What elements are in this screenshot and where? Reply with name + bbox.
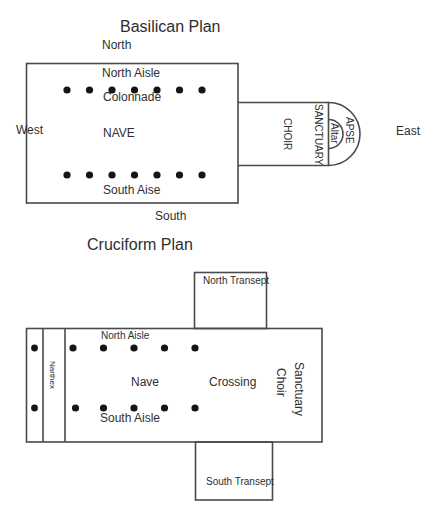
compass-east: East — [396, 124, 421, 138]
column-dot — [191, 404, 198, 411]
altar-label: Altar — [329, 123, 340, 144]
column-dot — [161, 344, 168, 351]
colonnade-label: Colonnade — [103, 90, 161, 104]
column-dot — [176, 86, 183, 93]
cruciform-nave-label: Nave — [131, 375, 159, 389]
cruciform-title: Cruciform Plan — [87, 236, 193, 253]
basilican-plan: Basilican Plan North North Aisle Colonna… — [16, 18, 421, 223]
cruciform-sanctuary-label: Sanctuary — [292, 362, 306, 416]
column-dot — [108, 171, 115, 178]
cruciform-north-colonnade — [69, 344, 198, 351]
crossing-label: Crossing — [209, 375, 256, 389]
column-dot — [69, 344, 76, 351]
column-dot — [153, 171, 160, 178]
column-dot — [198, 86, 205, 93]
basilica-north-aisle-label: North Aisle — [102, 66, 160, 80]
compass-west: West — [16, 123, 44, 137]
column-dot — [31, 405, 38, 412]
column-dot — [161, 404, 168, 411]
narthex-label: Narthex — [48, 361, 57, 389]
basilica-south-aisle-label: South Aise — [103, 183, 161, 197]
south-transept-outline — [196, 442, 273, 500]
column-dot — [63, 86, 70, 93]
column-dot — [63, 171, 70, 178]
column-dot — [72, 404, 79, 411]
sanctuary-label: SANCTUARY — [313, 104, 324, 166]
column-dot — [176, 171, 183, 178]
column-dot — [31, 345, 38, 352]
basilica-nave-label: NAVE — [103, 126, 135, 140]
north-transept-label: North Transept — [203, 275, 269, 286]
choir-label: CHOIR — [282, 118, 293, 150]
column-dot — [191, 344, 198, 351]
column-dot — [100, 344, 107, 351]
cruciform-plan: Cruciform Plan North Transept Narthex No… — [27, 236, 323, 500]
south-transept-label: South Transept — [206, 476, 274, 487]
column-dot — [86, 86, 93, 93]
cruciform-choir-label: Choir — [274, 368, 288, 397]
cruciform-south-aisle-label: South Aisle — [100, 411, 160, 425]
cruciform-north-aisle-label: North Aisle — [101, 330, 150, 341]
church-plans-diagram: Basilican Plan North North Aisle Colonna… — [0, 0, 438, 516]
compass-south: South — [155, 209, 186, 223]
basilican-title: Basilican Plan — [120, 18, 221, 35]
column-dot — [86, 171, 93, 178]
column-dot — [130, 344, 137, 351]
column-dot — [131, 171, 138, 178]
south-colonnade — [63, 171, 205, 178]
compass-north: North — [102, 38, 131, 52]
column-dot — [198, 171, 205, 178]
apse-label: APSE — [344, 117, 355, 144]
